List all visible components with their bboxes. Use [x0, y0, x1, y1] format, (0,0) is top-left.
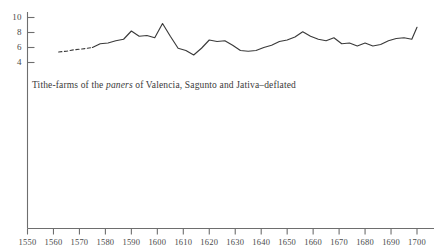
y-axis-tick-label: 6: [2, 42, 22, 52]
series-line-solid: [92, 24, 417, 56]
x-axis-tick-label: 1700: [402, 237, 432, 247]
chart-series-group: [59, 24, 417, 56]
y-axis-tick-label: 4: [2, 57, 22, 67]
chart-canvas: [0, 0, 442, 251]
y-axis-tick-label: 8: [2, 27, 22, 37]
caption-suffix: of Valencia, Sagunto and Jativa–deflated: [133, 80, 296, 90]
caption-prefix: Tithe-farms of the: [32, 80, 106, 90]
chart-axes: [28, 12, 435, 235]
caption-italic-term: paners: [106, 80, 133, 90]
y-axis-tick-label: 10: [2, 12, 22, 22]
chart-figure: 10864 1550156015701580159016001610162016…: [0, 0, 442, 251]
chart-caption: Tithe-farms of the paners of Valencia, S…: [32, 80, 296, 90]
series-line-dashed: [59, 48, 93, 53]
